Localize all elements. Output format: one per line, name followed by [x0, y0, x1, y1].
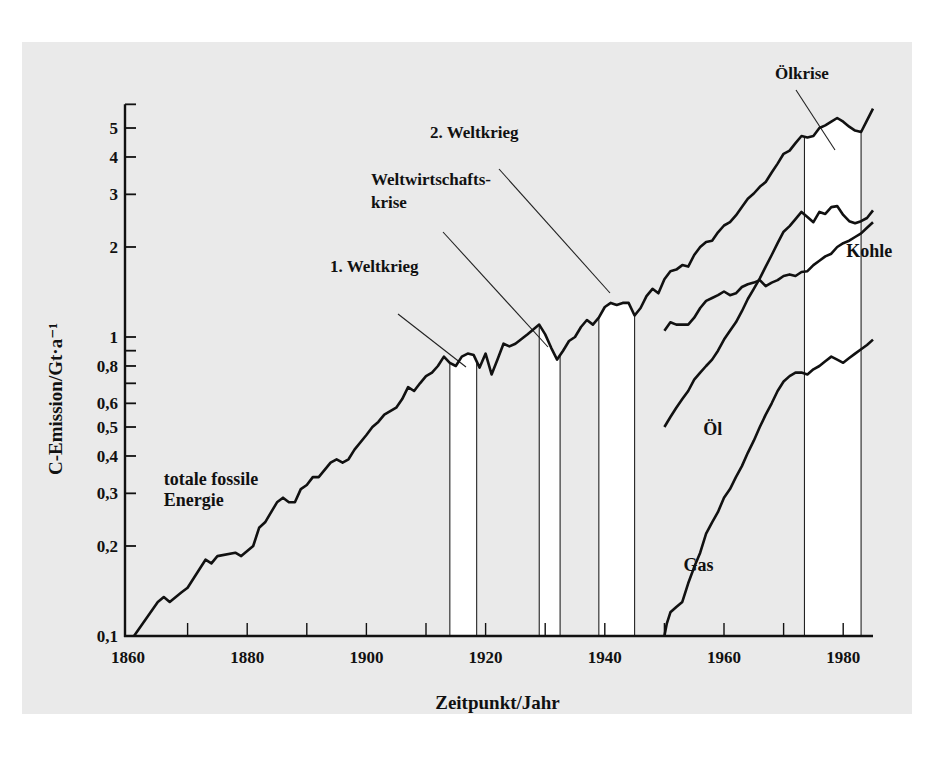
series-label: Öl — [703, 419, 722, 439]
annotation-leader-line — [398, 314, 466, 367]
y-tick-label: 0,2 — [97, 537, 118, 556]
y-tick-label: 0,6 — [97, 394, 118, 413]
series-label: totale fossile — [164, 469, 258, 489]
annotation-label: krise — [371, 193, 407, 212]
y-tick-label: 3 — [110, 185, 119, 204]
y-tick-label: 4 — [110, 148, 119, 167]
shaded-period--lkrise — [804, 118, 861, 636]
series-label: Energie — [164, 490, 224, 510]
data-series — [134, 109, 873, 636]
y-tick-label: 0,3 — [97, 484, 118, 503]
shaded-periods — [450, 118, 861, 636]
emission-chart: 0,10,20,30,40,50,60,81234518601880190019… — [0, 0, 949, 762]
y-tick-label: 1 — [110, 328, 119, 347]
shaded-period-weltwirtschaftskrise — [539, 325, 560, 636]
annotation-label: Ölkrise — [775, 64, 829, 83]
series-totale-fossile-energie — [134, 109, 873, 636]
shaded-period-1-weltkrieg — [450, 354, 477, 636]
x-tick-label: 1860 — [111, 648, 145, 667]
x-axis-title: Zeitpunkt/Jahr — [435, 692, 560, 713]
y-tick-label: 0,5 — [97, 418, 118, 437]
annotation-label: 2. Weltkrieg — [430, 123, 519, 142]
y-tick-label: 0,4 — [97, 447, 119, 466]
x-tick-label: 1980 — [826, 648, 860, 667]
y-tick-label: 0,1 — [97, 627, 118, 646]
y-tick-label: 5 — [110, 119, 119, 138]
annotation-leader-line — [499, 169, 610, 293]
series-label: Kohle — [846, 241, 892, 261]
shaded-period-2-weltkrieg — [599, 303, 635, 636]
x-tick-label: 1940 — [588, 648, 622, 667]
series-label: Gas — [683, 555, 713, 575]
x-tick-label: 1900 — [349, 648, 383, 667]
x-tick-label: 1880 — [230, 648, 264, 667]
annotation-label: 1. Weltkrieg — [330, 257, 419, 276]
x-tick-label: 1960 — [707, 648, 741, 667]
y-axis-title: C-Emission/Gt·a⁻¹ — [45, 323, 66, 475]
y-tick-label: 0,8 — [97, 357, 118, 376]
annotation-label: Weltwirtschafts- — [371, 170, 491, 189]
axes — [124, 104, 873, 637]
x-tick-label: 1920 — [469, 648, 503, 667]
y-tick-label: 2 — [110, 238, 119, 257]
